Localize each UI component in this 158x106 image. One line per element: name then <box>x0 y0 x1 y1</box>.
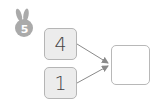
input-value-top: 4 <box>54 33 66 55</box>
input-box-bottom: 1 <box>44 67 77 99</box>
input-value-bottom: 1 <box>54 72 66 94</box>
arrow-bottom <box>77 66 108 83</box>
input-box-top: 4 <box>44 28 77 60</box>
answer-box[interactable] <box>111 45 150 85</box>
arrow-top <box>77 44 108 63</box>
